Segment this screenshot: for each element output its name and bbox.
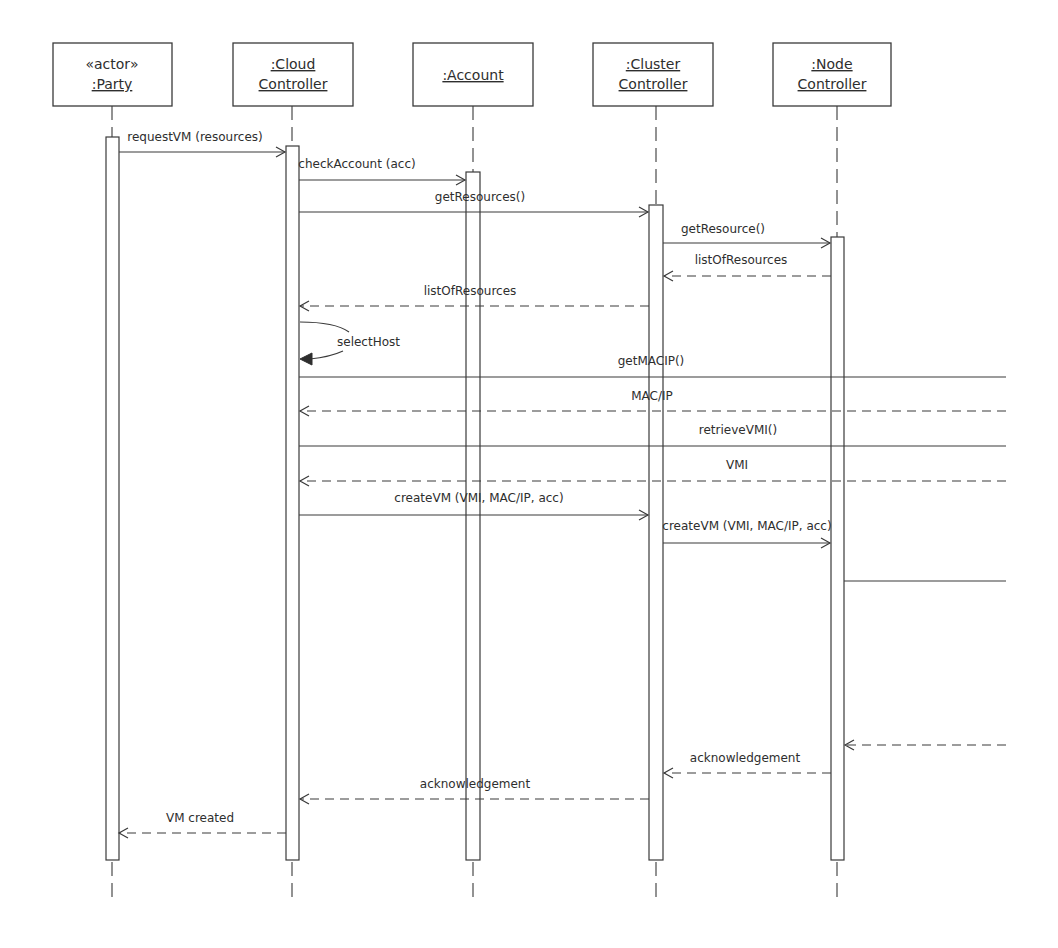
participant-cloud-controller: :Cloud Controller [233, 43, 353, 106]
participant-node-controller: :Node Controller [773, 43, 891, 106]
node-controller-name-line2: Controller [798, 76, 867, 92]
activation-account [466, 172, 480, 860]
message-label: getMACIP() [618, 354, 685, 368]
account-name: :Account [442, 67, 504, 83]
party-stereotype: «actor» [85, 56, 138, 72]
node-controller-name-line1: :Node [811, 56, 852, 72]
message-selecthost: selectHost [300, 322, 400, 365]
activation-node-controller [831, 237, 844, 860]
message-label: checkAccount (acc) [298, 157, 415, 171]
message-createvm-node: createVM (VMI, MAC/IP, acc) [662, 519, 831, 548]
message-node-incoming-return [845, 740, 1006, 750]
message-label: VMI [726, 458, 748, 472]
sequence-diagram: «actor» :Party :Cloud Controller :Accoun… [0, 0, 1058, 948]
participant-party: «actor» :Party [53, 43, 172, 106]
message-label: createVM (VMI, MAC/IP, acc) [662, 519, 831, 533]
cluster-controller-name-line2: Controller [619, 76, 688, 92]
message-label: MAC/IP [631, 389, 673, 403]
message-getresource: getResource() [663, 222, 830, 248]
participant-account: :Account [413, 43, 533, 106]
message-acknowledgement-node: acknowledgement [664, 751, 831, 778]
cloud-controller-name-line2: Controller [259, 76, 328, 92]
message-requestvm: requestVM (resources) [119, 130, 285, 157]
message-label: createVM (VMI, MAC/IP, acc) [394, 491, 563, 505]
message-label: VM created [166, 811, 234, 825]
activation-cluster-controller [649, 205, 663, 860]
message-label: listOfResources [695, 253, 788, 267]
cloud-controller-name-line1: :Cloud [271, 56, 316, 72]
message-label: selectHost [337, 335, 400, 349]
message-label: listOfResources [424, 284, 517, 298]
cluster-controller-name-line1: :Cluster [626, 56, 681, 72]
message-label: acknowledgement [420, 777, 531, 791]
message-label: acknowledgement [690, 751, 801, 765]
message-label: getResource() [681, 222, 765, 236]
activation-party [106, 137, 119, 860]
message-label: getResources() [435, 190, 525, 204]
party-name: :Party [92, 76, 133, 92]
message-checkaccount: checkAccount (acc) [298, 157, 465, 185]
activation-cloud-controller [286, 146, 299, 860]
filled-arrowhead-icon [300, 353, 312, 365]
message-listofresources-node: listOfResources [664, 253, 831, 281]
message-label: retrieveVMI() [699, 423, 777, 437]
participant-cluster-controller: :Cluster Controller [593, 43, 713, 106]
message-vm-created: VM created [119, 811, 286, 838]
message-label: requestVM (resources) [127, 130, 263, 144]
